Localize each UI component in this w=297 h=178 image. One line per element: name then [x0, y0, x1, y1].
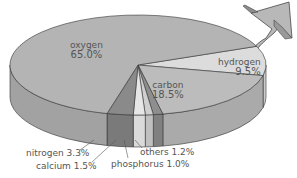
leader-lines [0, 0, 297, 178]
